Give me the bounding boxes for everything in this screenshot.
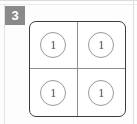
grid-cells: 1 1 1 1 [30, 22, 125, 116]
cell-value-label: 1 [98, 87, 104, 99]
panel-divider-top-secondary [0, 4, 137, 5]
cell-value-label: 1 [98, 39, 104, 51]
grid-cell[interactable]: 1 [30, 22, 78, 69]
cell-token-circle: 1 [40, 80, 66, 106]
screenshot-root: 3 1 1 1 1 [0, 0, 137, 124]
step-number-badge: 3 [5, 6, 25, 25]
panel-divider-top [0, 0, 137, 1]
panel-divider-right [133, 0, 134, 124]
cell-value-label: 1 [50, 39, 56, 51]
cell-token-circle: 1 [40, 32, 66, 58]
cell-token-circle: 1 [88, 32, 114, 58]
cell-token-circle: 1 [88, 80, 114, 106]
grid-panel[interactable]: 1 1 1 1 [29, 21, 126, 117]
grid-cell[interactable]: 1 [30, 69, 78, 116]
grid-cell[interactable]: 1 [78, 22, 126, 69]
grid-cell[interactable]: 1 [78, 69, 126, 116]
cell-value-label: 1 [50, 87, 56, 99]
